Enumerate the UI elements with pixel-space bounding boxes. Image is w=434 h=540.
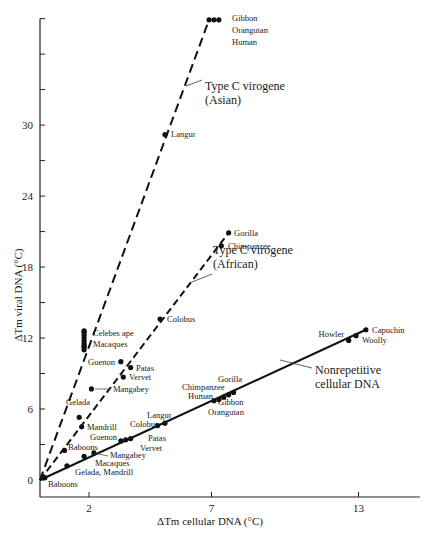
series-label-line1: Nonrepetitive (315, 363, 381, 377)
data-point (162, 421, 167, 426)
data-point (206, 17, 211, 22)
x-tick-label: 13 (353, 502, 365, 514)
data-point (128, 365, 133, 370)
point-label: Human (232, 37, 258, 47)
point-label: Mandrill (87, 422, 117, 432)
data-point (121, 374, 126, 379)
point-label: Orangutan (208, 407, 245, 417)
point-label: Woolly (362, 335, 388, 345)
data-point (216, 17, 221, 22)
point-label: Capuchin (372, 325, 405, 335)
y-tick-label: 0 (28, 474, 34, 486)
y-tick-label: 30 (22, 119, 34, 131)
point-label: Celebes ape (93, 328, 134, 338)
fit-lines (40, 20, 366, 480)
point-label: Mangabey (113, 384, 150, 394)
series-label-leader (186, 80, 202, 86)
point-label: Gorilla (234, 228, 258, 238)
series-label-line1: Type C virogene (205, 79, 285, 93)
point-label: Vervet (129, 372, 152, 382)
point-label: Colobus (167, 314, 195, 324)
point-label: Howler (319, 329, 345, 339)
data-point (118, 438, 123, 443)
data-point (42, 475, 47, 480)
point-label: Baboons (48, 479, 78, 489)
point-label: Orangutan (232, 25, 269, 35)
data-point (231, 390, 236, 395)
point-label: Gelada (66, 397, 90, 407)
data-point (353, 333, 358, 338)
fit-line-0 (40, 20, 209, 480)
data-point (62, 448, 67, 453)
data-point (211, 17, 216, 22)
series-label-line2: (African) (213, 257, 258, 271)
y-axis-title: ΔTm viral DNA (°C) (12, 248, 25, 341)
point-label: Baboons (68, 442, 98, 452)
point-label: Colobus (130, 419, 158, 429)
x-tick-label: 7 (209, 502, 215, 514)
point-label: Chimpanzee (228, 241, 271, 251)
point-label: Human (188, 391, 214, 401)
y-tick-label: 24 (22, 190, 34, 202)
point-label: Langur (171, 129, 196, 139)
x-axis-title: ΔTm cellular DNA (°C) (157, 515, 263, 528)
data-point (118, 359, 123, 364)
point-label: Guenon (88, 357, 116, 367)
data-point (128, 436, 133, 441)
y-tick-label: 6 (28, 403, 34, 415)
point-label: Guenon (90, 432, 118, 442)
point-label: Gelada, Mandrill (75, 467, 134, 477)
data-point (162, 132, 167, 137)
point-labels: Type C virogene(Asian)Type C virogene(Af… (48, 13, 405, 489)
series-label-line2: (Asian) (205, 93, 241, 107)
data-point (89, 386, 94, 391)
data-point (123, 437, 128, 442)
data-point (346, 338, 351, 343)
data-point-cluster (82, 330, 87, 335)
x-tick-label: 2 (86, 502, 92, 514)
data-point (82, 454, 87, 459)
data-point (363, 327, 368, 332)
series-label-line2: cellular DNA (315, 377, 380, 391)
point-label: Gibbon (232, 13, 258, 23)
chart-container: 06121824302713 Type C virogene(Asian)Typ… (0, 0, 434, 540)
data-point (226, 230, 231, 235)
data-point (79, 424, 84, 429)
data-point (77, 415, 82, 420)
point-label: Gibbon (218, 397, 244, 407)
data-point (64, 463, 69, 468)
chart-svg: 06121824302713 Type C virogene(Asian)Typ… (0, 0, 434, 540)
data-point (157, 317, 162, 322)
point-label: Macaques (93, 339, 127, 349)
point-label: Patas (148, 433, 166, 443)
